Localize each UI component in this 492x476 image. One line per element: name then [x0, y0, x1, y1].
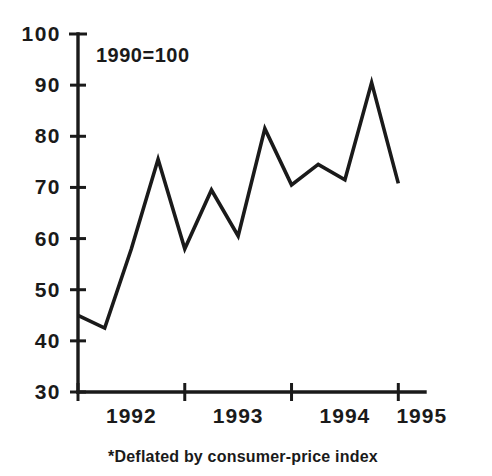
y-tick-label: 100: [21, 22, 61, 45]
x-axis-label: 1992: [106, 404, 157, 427]
y-tick-label: 90: [35, 73, 61, 96]
y-tick-label: 60: [35, 227, 61, 250]
y-tick-label: 40: [35, 329, 61, 352]
y-tick-label: 70: [35, 175, 61, 198]
chart-footnote: *Deflated by consumer-price index: [108, 448, 378, 465]
line-chart: 30405060708090100 1992199319941995 1990=…: [0, 0, 492, 476]
y-axis-tick-labels: 30405060708090100: [21, 22, 61, 403]
x-axis-label: 1994: [320, 404, 371, 427]
chart-figure: 30405060708090100 1992199319941995 1990=…: [0, 0, 492, 476]
x-axis-label: 1993: [213, 404, 264, 427]
data-series-line: [78, 83, 398, 328]
y-tick-label: 80: [35, 124, 61, 147]
x-axis-label: 1995: [396, 404, 447, 427]
y-tick-label: 50: [35, 278, 61, 301]
x-axis-tick-labels: 1992199319941995: [106, 404, 447, 427]
y-tick-label: 30: [35, 380, 61, 403]
chart-tick-marks: [69, 34, 398, 401]
base-year-annotation: 1990=100: [96, 44, 190, 66]
